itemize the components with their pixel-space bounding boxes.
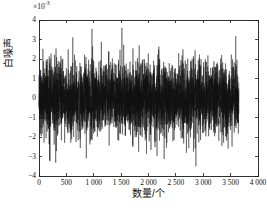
y-axis-exponent-base: ×10 [33,2,45,11]
y-tick-label: 3 [17,36,36,43]
x-tick-label: 3 000 [195,179,212,186]
y-axis-exponent-power: -3 [45,0,50,6]
y-axis-exponent-label: ×10-3 [33,1,50,10]
x-tick-label: 2 000 [140,179,157,186]
white-noise-trace [39,28,239,166]
x-tick-label: 1 000 [85,179,102,186]
x-tick-label: 4 000 [250,179,267,186]
y-tick-label: −1 [17,114,36,121]
y-tick-label: 2 [17,55,36,62]
y-axis-title: 白噪声 [4,23,14,83]
x-tick-label: 0 [37,179,41,186]
y-tick-label: −2 [17,133,36,140]
y-tick-label: 0 [17,94,36,101]
data-trace-group [39,28,239,166]
x-tick-label: 1 500 [113,179,130,186]
x-tick-label: 3 500 [222,179,239,186]
x-tick-label: 500 [61,179,72,186]
y-tick-label: −4 [17,172,36,179]
y-tick-label: 1 [17,75,36,82]
white-noise-chart-figure: ×10-3 05001 0001 5002 0002 5003 0003 500… [0,0,267,208]
x-tick-label: 2 500 [168,179,185,186]
x-axis-title: 数量/个 [39,189,258,199]
plot-canvas [0,0,267,208]
y-tick-label: −3 [17,153,36,160]
y-tick-label: 4 [17,16,36,23]
